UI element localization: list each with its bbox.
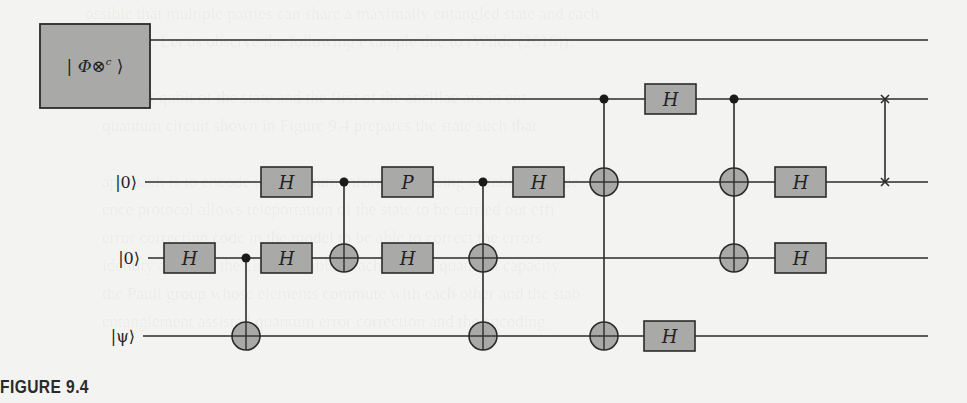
cnot-target-icon [590,322,618,350]
qubit-label-w5: |ψ⟩ [111,327,135,346]
gate-h: H [775,167,826,197]
state-block-label: | Φ⊗c ⟩ [67,56,124,76]
control-dot [730,95,739,104]
gate-label: P [400,172,414,193]
quantum-circuit-diagram: |0⟩|0⟩|ψ⟩ HHHPHHHHHH | Φ⊗c ⟩ [0,0,967,403]
cnot-target-icon [590,168,618,196]
cnot-target-icon [720,168,748,196]
cnot-target-icon [469,244,497,272]
entangled-state-block: | Φ⊗c ⟩ [40,24,150,108]
gate-h: H [164,243,215,273]
control-dot [340,178,349,187]
gate-h: H [513,167,564,197]
qubit-label-w4: |0⟩ [118,249,140,268]
gate-h: H [382,243,433,273]
gate-label: H [661,326,678,347]
gate-label: H [278,248,295,269]
gates-layer: HHHPHHHHHH [164,84,889,351]
gate-label: H [662,89,679,110]
gate-label: H [399,248,416,269]
cnot-target-icon [330,244,358,272]
control-lines-layer [246,99,885,350]
gate-h: H [644,321,695,351]
control-dot [600,95,609,104]
cnot-target-icon [232,322,260,350]
gate-label: H [792,248,809,269]
gate-label: H [792,172,809,193]
gate-label: H [530,172,547,193]
gate-h: H [645,84,696,114]
cnot-target-icon [469,322,497,350]
cnot-target-icon [720,244,748,272]
gate-h: H [775,243,826,273]
gate-label: H [278,172,295,193]
gate-label: H [181,248,198,269]
gate-h: H [261,243,312,273]
qubit-label-w3: |0⟩ [115,173,137,192]
control-dot [479,178,488,187]
control-dot [242,254,251,263]
gate-h: H [261,167,312,197]
gate-p: P [382,167,433,197]
figure-caption: FIGURE 9.4 [0,376,89,398]
